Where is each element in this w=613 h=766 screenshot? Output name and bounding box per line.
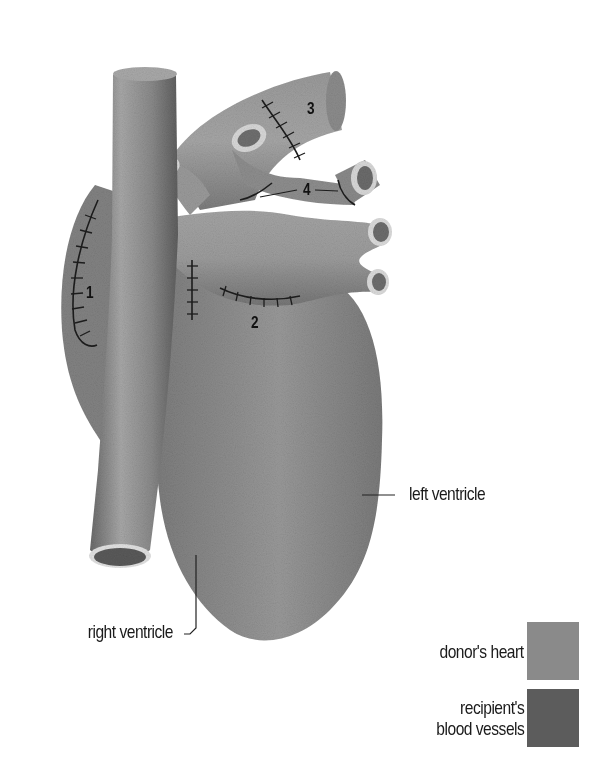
suture-label-3: 3 bbox=[307, 99, 315, 119]
legend-donor-swatch bbox=[527, 622, 579, 680]
legend-recipient-line1: recipient's bbox=[436, 697, 524, 718]
legend-recipient-swatch bbox=[527, 689, 579, 747]
legend-donor-heart: donor's heart bbox=[421, 622, 579, 680]
ventricle-body bbox=[153, 248, 382, 641]
suture-label-4: 4 bbox=[303, 180, 311, 200]
suture-label-2: 2 bbox=[251, 313, 259, 333]
label-right-ventricle: right ventricle bbox=[88, 621, 173, 643]
legend-donor-label: donor's heart bbox=[440, 641, 524, 662]
caption-cutoff: ▬ ▬▬▬ ▬ ▬▬▬▬ ▬▬▬ ▬▬ ▬▬▬▬ bbox=[0, 752, 613, 766]
legend-recipient-line2: blood vessels bbox=[436, 718, 524, 739]
legend-recipient-label: recipient's blood vessels bbox=[436, 697, 524, 739]
suture-label-1: 1 bbox=[86, 283, 94, 303]
legend-recipient-vessels: recipient's blood vessels bbox=[417, 689, 579, 747]
label-left-ventricle: left ventricle bbox=[409, 483, 485, 505]
